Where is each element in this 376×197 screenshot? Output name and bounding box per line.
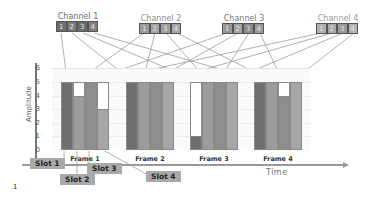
slot-1-label: Slot 1 [30, 158, 65, 169]
channel-2-sample-3: 3 [160, 23, 171, 34]
y-tick-1: 1 [30, 132, 40, 140]
channel-2: Channel 2 1 2 3 4 [131, 14, 191, 34]
slot-3-label: Slot 3 [87, 163, 122, 174]
channel-4-sample-3: 3 [337, 23, 348, 34]
channel-3-sample-1: 1 [222, 23, 233, 34]
channel-4-sample-2: 2 [327, 23, 338, 34]
frame-1-label: Frame 1 [60, 155, 110, 163]
bar-frame1-slot2 [73, 96, 85, 150]
channel-4: Channel 4 1 2 3 4 [308, 14, 368, 34]
time-axis-label: Time [266, 168, 288, 177]
channel-3-label: Channel 3 [214, 14, 274, 23]
channel-1-label: Channel 1 [48, 12, 108, 21]
time-axis-line [22, 164, 344, 166]
channel-1-sample-3: 3 [77, 21, 88, 32]
channel-3-sample-4: 4 [254, 23, 265, 34]
bar-frame3-slot2 [202, 82, 214, 150]
bar-frame3-slot4 [226, 82, 238, 150]
channel-3-sample-2: 2 [233, 23, 244, 34]
page-number: 1 [13, 183, 17, 191]
channel-3: Channel 3 1 2 3 4 [214, 14, 274, 34]
channel-4-sample-4: 4 [348, 23, 359, 34]
channel-2-label: Channel 2 [131, 14, 191, 23]
bar-frame2-slot3 [150, 82, 162, 150]
y-tick-6: 6 [30, 64, 40, 72]
bar-frame1-slot4 [97, 109, 109, 150]
time-arrow-icon [343, 162, 349, 168]
channel-1-sample-1: 1 [56, 21, 67, 32]
slot-2-label: Slot 2 [60, 174, 95, 185]
channel-2-sample-1: 1 [139, 23, 150, 34]
bar-frame1-slot1 [61, 82, 73, 150]
bar-frame2-slot2 [138, 82, 150, 150]
channel-2-sample-4: 4 [171, 23, 182, 34]
y-tick-5: 5 [30, 78, 40, 86]
bar-frame1-slot3 [85, 82, 97, 150]
channel-3-sample-3: 3 [243, 23, 254, 34]
bar-frame3-slot1 [190, 136, 202, 150]
bar-frame4-slot1 [254, 82, 266, 150]
channel-1: Channel 1 1 2 3 4 [48, 12, 108, 32]
channel-2-sample-2: 2 [150, 23, 161, 34]
slot-4-label: Slot 4 [146, 171, 181, 182]
bar-frame3-slot3 [214, 82, 226, 150]
frame-4-label: Frame 4 [253, 155, 303, 163]
bar-frame4-slot2 [266, 82, 278, 150]
channel-1-sample-2: 2 [67, 21, 78, 32]
frame-2-label: Frame 2 [125, 155, 175, 163]
y-axis-label: Amplitude [25, 86, 33, 122]
bar-frame4-slot3 [278, 96, 290, 150]
channel-1-sample-4: 4 [88, 21, 99, 32]
frame-3-label: Frame 3 [189, 155, 239, 163]
y-tick-0: 0 [30, 146, 40, 154]
bar-frame4-slot4 [290, 82, 302, 150]
channel-4-sample-1: 1 [316, 23, 327, 34]
channel-4-label: Channel 4 [308, 14, 368, 23]
bar-frame2-slot4 [162, 82, 174, 150]
bar-frame2-slot1 [126, 82, 138, 150]
